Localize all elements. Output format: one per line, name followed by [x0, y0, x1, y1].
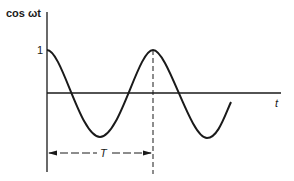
arrowhead-right-icon — [143, 151, 152, 156]
cosine-curve — [47, 50, 231, 138]
cosine-diagram: cos ωt t 1 T — [0, 0, 294, 181]
x-axis-label: t — [275, 97, 279, 109]
y-axis-label: cos ωt — [6, 7, 41, 19]
arrowhead-left-icon — [48, 151, 57, 156]
amplitude-tick-label: 1 — [37, 44, 43, 56]
period-label: T — [100, 147, 108, 159]
